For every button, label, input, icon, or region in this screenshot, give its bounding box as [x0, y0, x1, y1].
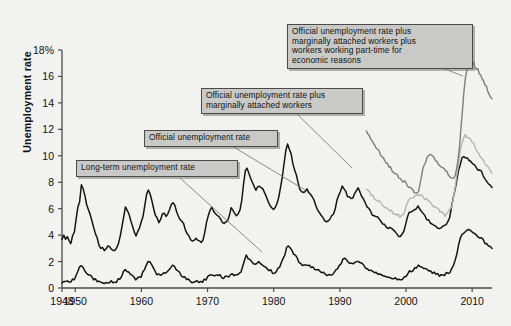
y-tick-label: 16 — [42, 70, 54, 82]
y-tick-label: 6 — [48, 203, 54, 215]
callout-u5: Official unemployment rate plus marginal… — [201, 88, 363, 114]
unemployment-rate-chart-figure: Unemployment rate 024681012141618%194819… — [0, 0, 511, 326]
callout-u6: Official unemployment rate plus marginal… — [287, 24, 473, 69]
series-line-3 — [366, 62, 492, 194]
x-tick-label: 2000 — [394, 295, 418, 307]
series-line-2 — [366, 134, 492, 217]
y-tick-label: 12 — [42, 123, 54, 135]
series-line-1 — [62, 230, 492, 284]
leader-line-1 — [291, 108, 352, 168]
y-tick-label: 2 — [48, 256, 54, 268]
y-tick-label: 0 — [48, 282, 54, 294]
y-tick-label: 4 — [48, 229, 54, 241]
x-tick-label: 1980 — [262, 295, 286, 307]
x-tick-label: 1970 — [196, 295, 220, 307]
y-tick-label: 14 — [42, 97, 54, 109]
y-tick-label: 18% — [33, 44, 54, 56]
y-tick-label: 10 — [42, 150, 54, 162]
y-tick-label: 8 — [48, 176, 54, 188]
callout-official-rate: Official unemployment rate — [144, 130, 278, 147]
x-tick-label: 2010 — [460, 295, 484, 307]
x-tick-label: 1990 — [328, 295, 352, 307]
x-tick-label: 1960 — [130, 295, 154, 307]
callout-long-term-rate: Long-term unemployment rate — [76, 160, 238, 177]
x-tick-label: 1950 — [64, 295, 88, 307]
